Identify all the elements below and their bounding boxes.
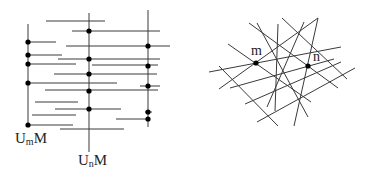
intersection-dot <box>145 43 150 48</box>
intersection-dot <box>25 39 30 44</box>
point-n-dot <box>305 63 310 68</box>
label-umm: UmM <box>15 131 47 147</box>
arrangement-line <box>219 66 278 126</box>
intersection-dot <box>25 52 30 57</box>
arrangement-line <box>267 22 304 107</box>
label-unm: UnM <box>78 153 107 169</box>
arrangement-line <box>275 24 278 111</box>
point-m-dot <box>253 60 258 65</box>
intersection-dot <box>145 63 150 68</box>
intersection-dot <box>25 122 30 127</box>
intersection-dot <box>145 116 150 121</box>
intersection-dot <box>86 88 91 93</box>
intersection-dot <box>145 83 150 88</box>
left-diagram-parallel-lines <box>25 10 170 152</box>
intersection-dot <box>86 106 91 111</box>
intersection-dot <box>25 61 30 66</box>
intersection-dot <box>86 28 91 33</box>
point-label-m: m <box>251 44 262 58</box>
intersection-dot <box>25 80 30 85</box>
arrangement-line <box>294 18 318 126</box>
right-diagram-line-arrangement <box>209 18 355 126</box>
intersection-dot <box>86 56 91 61</box>
arrangement-line <box>209 47 341 72</box>
point-label-n: n <box>313 50 320 64</box>
diagram-canvas <box>0 0 367 175</box>
arrangement-line <box>245 62 341 104</box>
intersection-dot <box>145 109 150 114</box>
intersection-dot <box>86 71 91 76</box>
